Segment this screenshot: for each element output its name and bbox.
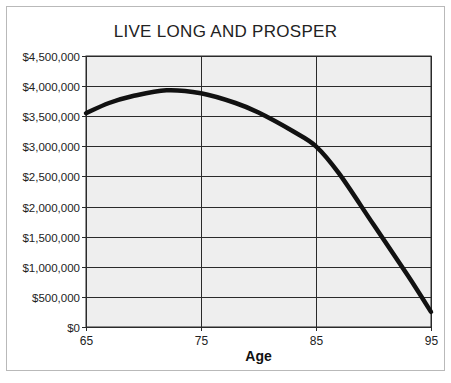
line-chart: $0$500,000$1,000,000$1,500,000$2,000,000… <box>0 0 451 383</box>
y-tick-label: $4,000,000 <box>22 81 80 93</box>
x-tick-label: 65 <box>80 334 94 348</box>
x-tick-label: 85 <box>310 334 324 348</box>
y-tick-label: $3,000,000 <box>22 141 80 153</box>
y-tick-label: $2,500,000 <box>22 171 80 183</box>
y-tick-label: $500,000 <box>32 292 80 304</box>
x-axis-ticks: 65758595 <box>80 334 439 348</box>
y-tick-label: $1,500,000 <box>22 232 80 244</box>
y-axis-ticks: $0$500,000$1,000,000$1,500,000$2,000,000… <box>22 51 80 334</box>
y-tick-label: $3,500,000 <box>22 111 80 123</box>
y-tick-label: $2,000,000 <box>22 202 80 214</box>
y-tick-label: $0 <box>67 322 80 334</box>
x-axis-label: Age <box>245 348 272 364</box>
x-tick-label: 95 <box>425 334 439 348</box>
y-tick-label: $4,500,000 <box>22 51 80 63</box>
x-tick-label: 75 <box>195 334 209 348</box>
y-tick-label: $1,000,000 <box>22 262 80 274</box>
